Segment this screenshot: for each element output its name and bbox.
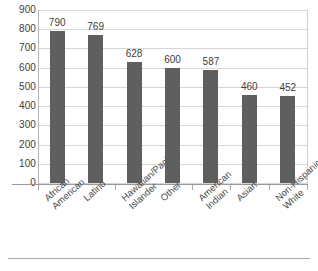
x-axis-tick: [307, 185, 308, 190]
x-axis-tick: [153, 185, 154, 190]
x-axis-tick: [230, 185, 231, 190]
bar-value-label: 452: [271, 83, 305, 93]
bar: [280, 96, 295, 183]
bar-value-label: 769: [79, 22, 113, 32]
x-axis-tick: [192, 185, 193, 190]
x-axis-tick: [269, 185, 270, 190]
bar: [203, 70, 218, 183]
x-axis-tick: [38, 185, 39, 190]
bar: [242, 95, 257, 183]
x-axis-tick: [76, 185, 77, 190]
bar: [127, 62, 142, 183]
bar-value-label: 628: [117, 49, 151, 59]
x-axis-tick: [115, 185, 116, 190]
bar-value-label: 790: [40, 18, 74, 28]
bar-value-label: 460: [232, 82, 266, 92]
bar: [165, 68, 180, 183]
bar-value-label: 587: [194, 57, 228, 67]
bar: [50, 31, 65, 183]
bar: [88, 35, 103, 183]
bar-chart: 9008007006005004003002001000 AfricanAmer…: [0, 0, 318, 271]
bar-value-label: 600: [156, 55, 190, 65]
x-axis-category-labels: AfricanAmericanLatinoHawaiian/PacificIsl…: [0, 0, 318, 271]
